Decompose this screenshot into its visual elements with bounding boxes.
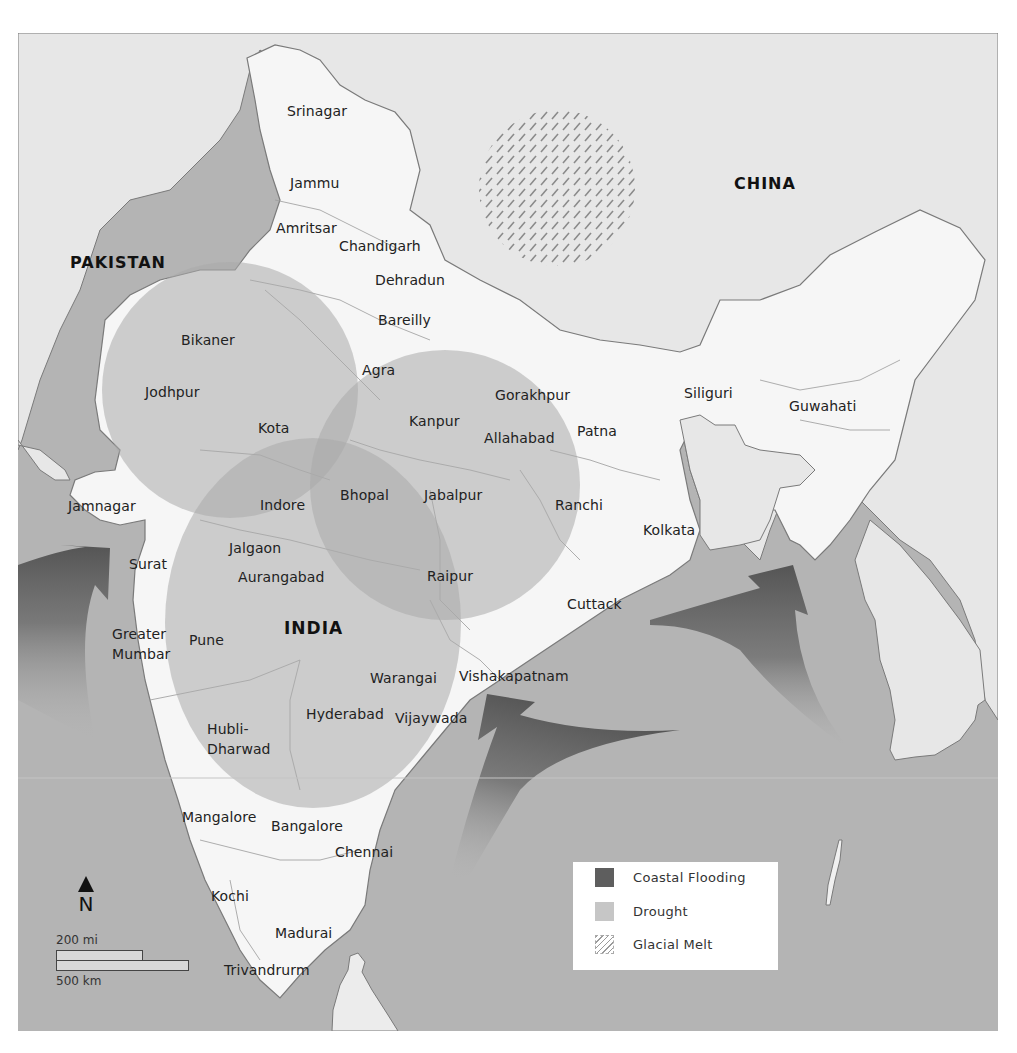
city-label-kota: Kota — [258, 420, 290, 436]
city-label-bareilly: Bareilly — [378, 312, 431, 328]
city-label-raipur: Raipur — [427, 568, 473, 584]
city-label-hubli: Hubli- — [207, 721, 249, 737]
city-label-jammu: Jammu — [290, 175, 339, 191]
scale-km-label: 500 km — [56, 974, 101, 988]
legend-item-glacial-melt: Glacial Melt — [595, 934, 713, 954]
city-label-vijaywada: Vijaywada — [395, 710, 467, 726]
city-label-jabalpur: Jabalpur — [424, 487, 482, 503]
city-label-siliguri: Siliguri — [684, 385, 733, 401]
city-label-jodhpur: Jodhpur — [145, 384, 200, 400]
city-label-chennai: Chennai — [335, 844, 393, 860]
city-label-bhopal: Bhopal — [340, 487, 389, 503]
city-label-kolkata: Kolkata — [643, 522, 695, 538]
legend-label: Drought — [633, 904, 688, 919]
city-label-bikaner: Bikaner — [181, 332, 235, 348]
glacial-melt-swatch — [595, 935, 614, 954]
north-compass: N — [76, 876, 96, 914]
legend-item-coastal-flooding: Coastal Flooding — [595, 867, 746, 887]
city-label-dehradun: Dehradun — [375, 272, 445, 288]
city-label-patna: Patna — [577, 423, 617, 439]
city-label-guwahati: Guwahati — [789, 398, 856, 414]
legend-label: Glacial Melt — [633, 937, 713, 952]
city-label-aurangabad: Aurangabad — [238, 569, 324, 585]
city-label-mangalore: Mangalore — [182, 809, 256, 825]
city-label-kanpur: Kanpur — [409, 413, 460, 429]
city-label-kochi: Kochi — [211, 888, 249, 904]
city-label-jalgaon: Jalgaon — [229, 540, 281, 556]
city-label-pune: Pune — [189, 632, 224, 648]
north-arrow-icon — [78, 876, 94, 892]
city-label-cuttack: Cuttack — [567, 596, 622, 612]
drought-swatch — [595, 902, 614, 921]
city-label-gorakhpur: Gorakhpur — [495, 387, 570, 403]
country-label-india: INDIA — [284, 618, 343, 638]
legend-label: Coastal Flooding — [633, 870, 746, 885]
city-label-allahabad: Allahabad — [484, 430, 555, 446]
map-legend: Coastal Flooding Drought Glacial Melt — [573, 862, 778, 970]
legend-item-drought: Drought — [595, 901, 688, 921]
city-label-chandigarh: Chandigarh — [339, 238, 421, 254]
city-label-surat: Surat — [129, 556, 167, 572]
city-label-warangai: Warangai — [370, 670, 437, 686]
north-letter: N — [76, 894, 96, 914]
country-label-pakistan: PAKISTAN — [70, 253, 166, 272]
coastal-flooding-swatch — [595, 868, 614, 887]
scale-miles-label: 200 mi — [56, 933, 98, 947]
country-label-china: CHINA — [734, 174, 796, 193]
city-label-amritsar: Amritsar — [276, 220, 337, 236]
scale-bar-km — [56, 960, 189, 971]
city-label-indore: Indore — [260, 497, 305, 513]
city-label-jamnagar: Jamnagar — [68, 498, 136, 514]
city-label-mumbar: Mumbar — [112, 646, 170, 662]
city-label-hyderabad: Hyderabad — [306, 706, 384, 722]
city-label-madurai: Madurai — [275, 925, 332, 941]
city-label-vishakapatnam: Vishakapatnam — [459, 668, 569, 684]
city-label-agra: Agra — [362, 362, 395, 378]
city-label-ranchi: Ranchi — [555, 497, 603, 513]
city-label-srinagar: Srinagar — [287, 103, 347, 119]
climate-impact-map — [0, 0, 1017, 1053]
glacial-melt-zone — [479, 110, 635, 266]
city-label-trivandrurm: Trivandrurm — [224, 962, 310, 978]
city-label-greater: Greater — [112, 626, 166, 642]
city-label-dharwad: Dharwad — [207, 741, 271, 757]
city-label-bangalore: Bangalore — [271, 818, 343, 834]
